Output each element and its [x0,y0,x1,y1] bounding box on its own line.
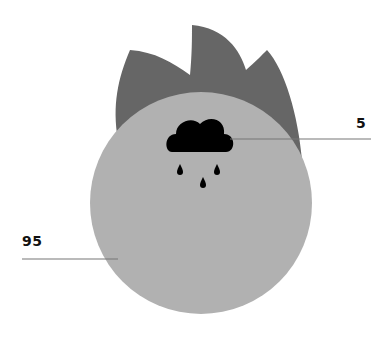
value-label-small: 5 [356,116,366,130]
pictorial-chart [0,0,389,337]
value-label-large: 95 [22,234,42,248]
